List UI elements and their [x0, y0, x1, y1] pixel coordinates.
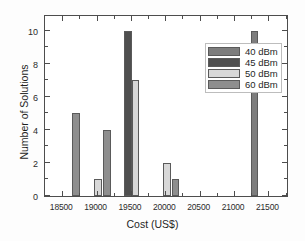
- bar: [103, 130, 111, 196]
- legend-item: 45 dBm: [208, 57, 278, 68]
- y-axis-tick: [284, 178, 287, 179]
- x-axis-tick: [97, 16, 98, 21]
- x-axis-tick: [79, 193, 80, 196]
- x-axis-title: Cost (US$): [0, 218, 305, 230]
- chart-legend: 40 dBm45 dBm50 dBm60 dBm: [205, 43, 282, 93]
- x-axis-tick: [251, 193, 252, 196]
- legend-item: 40 dBm: [208, 46, 278, 57]
- x-axis-tick-label: 21000: [222, 202, 245, 212]
- x-axis-tick: [251, 16, 252, 19]
- x-axis-tick-label: 20500: [187, 202, 210, 212]
- y-axis-tick: [45, 112, 48, 113]
- x-axis-tick: [79, 16, 80, 19]
- bar: [132, 80, 140, 196]
- x-axis-tick-label: 20000: [153, 202, 176, 212]
- x-axis-tick: [200, 16, 201, 21]
- legend-swatch: [208, 58, 240, 67]
- y-axis-tick: [45, 79, 48, 80]
- x-axis-tick: [200, 191, 201, 196]
- x-axis-tick-label: 21500: [256, 202, 279, 212]
- x-axis-tick: [234, 191, 235, 196]
- x-axis-tick: [165, 191, 166, 196]
- x-axis-tick: [268, 191, 269, 196]
- y-axis-tick: [45, 129, 50, 130]
- x-axis-tick: [62, 191, 63, 196]
- y-axis-tick: [45, 63, 50, 64]
- x-axis-tick: [217, 193, 218, 196]
- legend-swatch: [208, 69, 240, 78]
- y-axis-tick: [45, 162, 50, 163]
- legend-label: 45 dBm: [245, 57, 278, 68]
- legend-swatch: [208, 47, 240, 56]
- x-axis-tick: [286, 16, 287, 19]
- y-axis-tick: [284, 112, 287, 113]
- x-axis-tick: [268, 16, 269, 21]
- y-axis-tick: [284, 46, 287, 47]
- x-axis-tick: [114, 16, 115, 19]
- y-axis-tick: [284, 145, 287, 146]
- x-axis-tick: [234, 16, 235, 21]
- legend-label: 40 dBm: [245, 46, 278, 57]
- x-axis-tick: [148, 16, 149, 19]
- legend-label: 60 dBm: [245, 79, 278, 90]
- y-axis-tick: [282, 63, 287, 64]
- x-axis-tick: [131, 16, 132, 21]
- y-axis-tick: [45, 178, 48, 179]
- x-axis-tick: [62, 16, 63, 21]
- bar: [172, 179, 180, 196]
- x-axis-tick: [97, 191, 98, 196]
- x-axis-tick: [182, 16, 183, 19]
- y-axis-tick: [282, 162, 287, 163]
- legend-item: 60 dBm: [208, 79, 278, 90]
- bar: [94, 179, 102, 196]
- y-axis-tick: [45, 46, 48, 47]
- bar: [72, 113, 80, 196]
- chart-figure: 40 dBm45 dBm50 dBm60 dBm 185001900019500…: [0, 0, 305, 241]
- y-axis-tick: [45, 96, 50, 97]
- x-axis-tick: [131, 191, 132, 196]
- y-axis-tick: [282, 96, 287, 97]
- x-axis-tick-label: 19000: [84, 202, 107, 212]
- x-axis-tick: [165, 16, 166, 21]
- y-axis-tick: [282, 129, 287, 130]
- x-axis-tick: [114, 193, 115, 196]
- x-axis-tick: [148, 193, 149, 196]
- y-axis-tick: [45, 145, 48, 146]
- y-axis-tick-label: 10: [10, 27, 38, 37]
- y-axis-tick: [282, 195, 287, 196]
- bar: [124, 31, 132, 196]
- plot-area: 40 dBm45 dBm50 dBm60 dBm: [44, 15, 288, 197]
- legend-label: 50 dBm: [245, 68, 278, 79]
- legend-swatch: [208, 80, 240, 89]
- x-axis-tick: [182, 193, 183, 196]
- x-axis-tick-label: 18500: [50, 202, 73, 212]
- legend-item: 50 dBm: [208, 68, 278, 79]
- y-axis-tick: [45, 195, 50, 196]
- x-axis-tick: [217, 16, 218, 19]
- x-axis-tick-label: 19500: [119, 202, 142, 212]
- y-axis-title: Number of Solutions: [18, 42, 30, 182]
- y-axis-tick: [284, 79, 287, 80]
- y-axis-tick: [282, 30, 287, 31]
- y-axis-tick: [45, 30, 50, 31]
- y-axis-tick-label: 0: [10, 192, 38, 202]
